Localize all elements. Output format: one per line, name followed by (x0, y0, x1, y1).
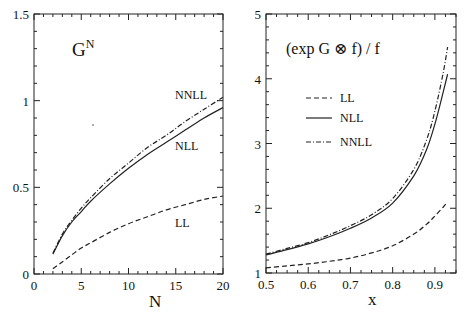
curve-nnll (53, 97, 223, 253)
curve-nll (266, 74, 448, 255)
left-chart-panel: 0510152000.511.5 GN NNLL NLL LL N (13, 7, 230, 311)
left-label-nnll: NNLL (175, 88, 207, 102)
left-label-ll: LL (175, 216, 190, 230)
y-tick-label: 5 (255, 7, 262, 22)
x-tick-label: 0.6 (300, 277, 317, 292)
legend-label-ll: LL (340, 91, 355, 105)
left-annotation-superscript: N (86, 37, 95, 51)
y-tick-label: 3 (255, 137, 262, 152)
curve-ll (53, 196, 223, 269)
y-tick-label: 0 (23, 267, 30, 282)
legend-label-nnll: NNLL (340, 135, 372, 149)
curve-ll (266, 202, 448, 268)
stray-dot (92, 124, 94, 126)
x-tick-label: 0.7 (342, 277, 359, 292)
y-tick-label: 1.5 (13, 7, 29, 22)
x-tick-label: 0.9 (427, 277, 443, 292)
left-annotation-gn: GN (72, 37, 95, 60)
x-tick-label: 5 (78, 278, 85, 293)
curve-nll (53, 108, 223, 255)
y-tick-label: 0.5 (13, 180, 29, 195)
y-tick-label: 2 (255, 201, 262, 216)
left-label-nll: NLL (175, 139, 198, 153)
right-legend: LL NLL NNLL (306, 91, 372, 149)
curve-nnll (266, 47, 448, 254)
y-tick-label: 1 (23, 94, 30, 109)
right-xlabel: x (368, 290, 377, 309)
figure-canvas: 0510152000.511.5 GN NNLL NLL LL N 0.50.6… (0, 0, 464, 313)
left-xlabel: N (149, 292, 161, 311)
y-tick-label: 1 (255, 266, 262, 281)
x-tick-label: 20 (217, 278, 230, 293)
x-tick-label: 10 (122, 278, 135, 293)
right-annotation-formula: (exp G ⊗ f) / f (286, 40, 380, 58)
right-chart-panel: 0.50.60.70.80.912345 (exp G ⊗ f) / f LL … (255, 7, 457, 309)
y-tick-label: 4 (255, 72, 262, 87)
legend-label-nll: NLL (340, 111, 363, 125)
right-curves (266, 47, 448, 268)
left-curves (53, 97, 223, 269)
x-tick-label: 15 (169, 278, 182, 293)
x-tick-label: 0.8 (385, 277, 401, 292)
x-tick-label: 0 (31, 278, 38, 293)
